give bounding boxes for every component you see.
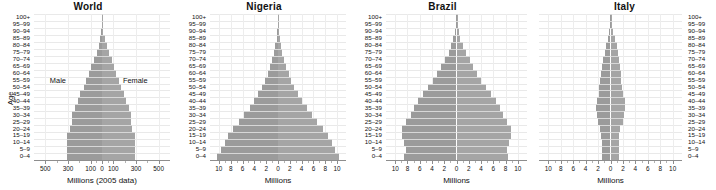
bar-female <box>102 28 103 35</box>
bar-male <box>602 139 611 146</box>
pyramid-row <box>210 111 346 118</box>
bar-female <box>457 14 458 21</box>
bar-male <box>80 90 102 97</box>
pyramid-row <box>386 84 527 91</box>
pyramid-row <box>210 118 346 125</box>
age-tick-label: 0–4 <box>196 153 206 159</box>
bar-female <box>102 146 135 153</box>
x-tick-minor <box>592 161 593 163</box>
bar-male <box>225 139 278 146</box>
x-tick <box>91 161 92 164</box>
bar-male <box>84 84 102 91</box>
x-tick <box>506 161 507 164</box>
bar-male <box>597 111 611 118</box>
x-tick-label: 300 <box>124 165 148 172</box>
x-tick-minor <box>260 161 261 163</box>
pyramid-row <box>386 21 527 28</box>
pyramid-row <box>210 153 346 160</box>
bar-male <box>258 90 278 97</box>
bar-male <box>597 97 611 104</box>
pyramid-row <box>539 104 682 111</box>
series-label-male: Male <box>50 76 66 85</box>
bar-female <box>457 132 512 139</box>
bar-male <box>94 56 102 63</box>
bar-female <box>278 21 279 28</box>
bar-female <box>457 84 487 91</box>
bar-female <box>611 125 621 132</box>
bar-female <box>278 104 307 111</box>
pyramid-row <box>34 28 170 35</box>
pyramid-row <box>386 35 527 42</box>
bar-male <box>270 63 278 70</box>
pyramid-row <box>386 56 527 63</box>
age-tick-label: 40–44 <box>13 98 30 104</box>
pyramid-panel-italy: Italy100+95–9990–9485–8980–8475–7970–746… <box>533 0 716 190</box>
bar-female <box>611 42 617 49</box>
age-axis-labels: 100+95–9990–9485–8980–8475–7970–7465–696… <box>356 0 382 190</box>
age-tick-label: 30–34 <box>13 112 30 118</box>
x-tick <box>444 161 445 164</box>
pyramid-row <box>386 104 527 111</box>
bar-male <box>268 70 278 77</box>
pyramid-row <box>539 77 682 84</box>
bar-female <box>278 97 302 104</box>
bar-female <box>102 56 112 63</box>
x-tick <box>219 161 220 164</box>
bar-male <box>75 104 102 111</box>
pyramid-row <box>210 125 346 132</box>
x-tick-minor <box>555 161 556 163</box>
pyramid-row <box>210 21 346 28</box>
pyramid-row <box>386 42 527 49</box>
bar-male <box>602 63 611 70</box>
pyramid-row <box>539 125 682 132</box>
x-tick-minor <box>666 161 667 163</box>
x-tick <box>548 161 549 164</box>
age-tick-label: 25–29 <box>688 119 705 125</box>
plot-area <box>34 14 170 160</box>
bar-female <box>278 70 289 77</box>
pyramid-row <box>539 42 682 49</box>
x-tick <box>660 161 661 164</box>
bar-female <box>278 84 294 91</box>
x-tick <box>254 161 255 164</box>
x-tick <box>469 161 470 164</box>
pyramid-row <box>386 146 527 153</box>
bar-female <box>611 14 612 21</box>
age-tick-label: 0–4 <box>372 153 382 159</box>
bar-female <box>611 49 618 56</box>
x-tick <box>407 161 408 164</box>
bar-female <box>102 139 135 146</box>
bar-male <box>72 111 102 118</box>
age-tick-label: 40–44 <box>365 98 382 104</box>
x-tick-label: 300 <box>56 165 80 172</box>
x-tick-minor <box>438 161 439 163</box>
pyramid-row <box>386 70 527 77</box>
x-tick <box>68 161 69 164</box>
bar-female <box>102 14 103 21</box>
pyramid-row <box>539 70 682 77</box>
bar-male <box>603 56 610 63</box>
bar-male <box>78 97 102 104</box>
bar-male <box>418 97 456 104</box>
bar-female <box>457 139 509 146</box>
bar-female <box>102 21 103 28</box>
bar-female <box>457 28 459 35</box>
bar-female <box>457 77 482 84</box>
pyramid-row <box>539 56 682 63</box>
bar-male <box>601 132 610 139</box>
bar-male <box>67 153 102 160</box>
bar-male <box>250 104 278 111</box>
bar-female <box>611 118 623 125</box>
bar-female <box>457 90 491 97</box>
bar-male <box>265 77 278 84</box>
y-axis-title: Age <box>6 92 15 105</box>
bar-female <box>102 42 107 49</box>
age-tick-label: 30–34 <box>688 112 705 118</box>
pyramid-row <box>34 21 170 28</box>
pyramid-panel-nigeria: Nigeria100+95–9990–9485–8980–8475–7970–7… <box>176 0 352 190</box>
x-tick <box>313 161 314 164</box>
bar-male <box>423 90 456 97</box>
x-tick-minor <box>296 161 297 163</box>
pyramid-row <box>34 90 170 97</box>
bar-female <box>457 153 508 160</box>
